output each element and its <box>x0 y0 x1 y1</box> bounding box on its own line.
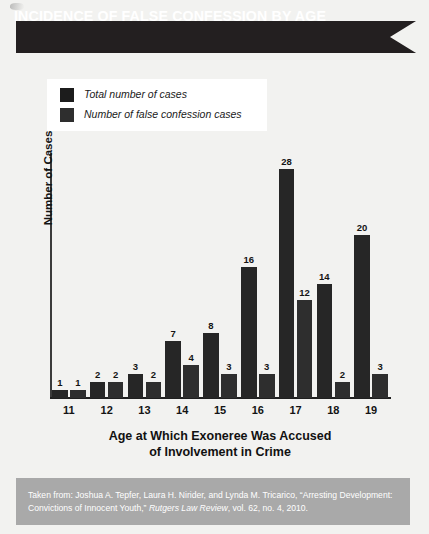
bar-age-11-series-2: 1 <box>70 390 86 398</box>
source-footer: Taken from: Joshua A. Tepfer, Laura H. N… <box>16 478 410 525</box>
x-axis-title-line-2: of Involvement in Crime <box>50 444 390 460</box>
bar-value-label: 4 <box>189 352 194 363</box>
legend-swatch-icon-false-confession-cases <box>60 108 74 122</box>
bar-value-label: 8 <box>208 320 213 331</box>
x-tick-label-19: 19 <box>365 404 377 416</box>
x-tick-label-18: 18 <box>327 404 339 416</box>
bar-value-label: 12 <box>299 287 310 298</box>
bar-value-label: 2 <box>151 369 156 380</box>
chart-page: INCIDENCE OF FALSE CONFESSION BY AGE Tot… <box>0 0 429 534</box>
bar-value-label: 3 <box>226 361 231 372</box>
bar-age-14-series-1: 7 <box>165 341 181 398</box>
x-tick-label-13: 13 <box>138 404 150 416</box>
bar-age-12-series-1: 2 <box>90 382 106 398</box>
bar-age-16-series-2: 3 <box>259 374 275 399</box>
bar-age-17-series-2: 12 <box>297 300 313 398</box>
bar-age-17-series-1: 28 <box>279 169 295 398</box>
source-citation: Taken from: Joshua A. Tepfer, Laura H. N… <box>28 489 400 514</box>
bar-age-19-series-1: 20 <box>354 235 370 398</box>
bar-age-19-series-2: 3 <box>372 374 388 399</box>
legend-swatch-icon-total-cases <box>60 88 74 102</box>
bar-age-14-series-2: 4 <box>183 365 199 398</box>
x-axis-title-line-1: Age at Which Exoneree Was Accused <box>50 428 390 444</box>
bar-value-label: 3 <box>264 361 269 372</box>
bar-value-label: 3 <box>377 361 382 372</box>
title-banner <box>16 21 416 53</box>
bar-value-label: 7 <box>171 328 176 339</box>
x-tick-label-11: 11 <box>63 404 75 416</box>
bar-value-label: 3 <box>133 361 138 372</box>
citation-journal: Rutgers Law Review <box>149 503 228 513</box>
chart-legend: Total number of cases Number of false co… <box>47 79 267 131</box>
bar-age-12-series-2: 2 <box>108 382 124 398</box>
bar-age-11-series-1: 1 <box>52 390 68 398</box>
bar-age-18-series-1: 14 <box>317 284 333 398</box>
legend-label-false-confession-cases: Number of false confession cases <box>84 107 242 122</box>
bar-value-label: 1 <box>57 377 62 388</box>
bar-age-18-series-2: 2 <box>335 382 351 398</box>
bar-value-label: 20 <box>357 222 368 233</box>
bar-value-label: 1 <box>75 377 80 388</box>
bar-value-label: 16 <box>243 254 254 265</box>
x-tick-label-14: 14 <box>176 404 188 416</box>
bar-value-label: 14 <box>319 271 330 282</box>
bar-age-15-series-1: 8 <box>203 333 219 398</box>
page-title: INCIDENCE OF FALSE CONFESSION BY AGE <box>14 8 326 24</box>
bar-value-label: 2 <box>113 369 118 380</box>
x-tick-label-16: 16 <box>252 404 264 416</box>
bar-value-label: 28 <box>281 156 292 167</box>
bar-value-label: 2 <box>340 369 345 380</box>
bar-value-label: 2 <box>95 369 100 380</box>
x-axis-title: Age at Which Exoneree Was Accused of Inv… <box>50 428 390 460</box>
citation-suffix: , vol. 62, no. 4, 2010. <box>228 503 308 513</box>
bar-age-13-series-2: 2 <box>146 382 162 398</box>
x-tick-label-15: 15 <box>214 404 226 416</box>
legend-label-total-cases: Total number of cases <box>84 87 187 102</box>
plot-area: 11223274831632812142203 <box>50 153 390 398</box>
bar-age-15-series-2: 3 <box>221 374 237 399</box>
x-tick-label-12: 12 <box>101 404 113 416</box>
bar-age-13-series-1: 3 <box>128 374 144 399</box>
x-tick-label-17: 17 <box>289 404 301 416</box>
bar-age-16-series-1: 16 <box>241 267 257 398</box>
